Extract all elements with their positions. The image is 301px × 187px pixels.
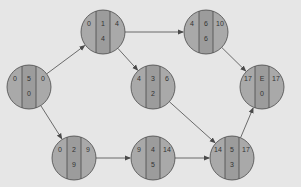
node-n1: 0144 (81, 10, 125, 54)
node-activity-id: 2 (72, 146, 76, 153)
nodes-layer: 0500014446106436217E170029994145145173 (7, 10, 284, 180)
node-early-finish: 17 (242, 146, 250, 153)
diagram-svg: 0500014446106436217E170029994145145173 (0, 0, 301, 187)
node-activity-id: 5 (27, 75, 31, 82)
node-activity-id: 1 (101, 20, 105, 27)
arrow-n5-to-end (241, 108, 253, 138)
node-center-band (255, 65, 269, 109)
node-center-band (225, 136, 239, 180)
node-early-finish: 9 (86, 146, 90, 153)
node-slack: 3 (230, 161, 234, 168)
arrow-n1-to-n3 (118, 48, 138, 70)
node-center-band (96, 10, 110, 54)
node-slack: 0 (260, 90, 264, 97)
node-early-start: 0 (87, 20, 91, 27)
node-early-start: 4 (137, 75, 141, 82)
node-slack: 0 (27, 90, 31, 97)
node-early-finish: 17 (272, 75, 280, 82)
node-n3: 4362 (131, 65, 175, 109)
node-end: 17E170 (240, 65, 284, 109)
node-early-finish: 6 (165, 75, 169, 82)
node-early-start: 0 (58, 146, 62, 153)
arrow-n6-to-end (222, 47, 246, 70)
node-center-band (22, 65, 36, 109)
node-slack: 5 (151, 161, 155, 168)
node-slack: 4 (101, 35, 105, 42)
arrow-n3-to-n5 (169, 102, 215, 143)
node-n5: 145173 (210, 136, 254, 180)
node-early-finish: 4 (115, 20, 119, 27)
node-slack: 6 (204, 35, 208, 42)
node-activity-id: 5 (230, 146, 234, 153)
node-n2: 0299 (52, 136, 96, 180)
node-early-start: 14 (214, 146, 222, 153)
arrow-start-to-n1 (47, 46, 85, 74)
network-diagram: 0500014446106436217E170029994145145173 (0, 0, 301, 187)
node-n4: 94145 (131, 136, 175, 180)
node-early-start: 0 (13, 75, 17, 82)
node-center-band (199, 10, 213, 54)
node-start: 0500 (7, 65, 51, 109)
node-activity-id: 4 (151, 146, 155, 153)
node-activity-id: 3 (151, 75, 155, 82)
node-early-finish: 14 (163, 146, 171, 153)
node-slack: 9 (72, 161, 76, 168)
node-early-start: 4 (190, 20, 194, 27)
arrow-start-to-n2 (41, 106, 62, 139)
node-early-start: 9 (137, 146, 141, 153)
node-early-finish: 0 (41, 75, 45, 82)
node-activity-id: 6 (204, 20, 208, 27)
node-center-band (146, 65, 160, 109)
node-center-band (146, 136, 160, 180)
node-early-finish: 10 (216, 20, 224, 27)
node-n6: 46106 (184, 10, 228, 54)
node-early-start: 17 (244, 75, 252, 82)
node-center-band (67, 136, 81, 180)
node-slack: 2 (151, 90, 155, 97)
node-activity-id: E (260, 75, 265, 82)
